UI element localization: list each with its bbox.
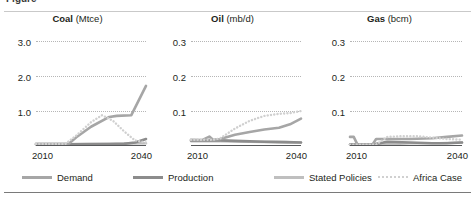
figure-root: Figure Coal (Mtce) 1.02.03.020102040 Oil… bbox=[0, 0, 475, 201]
y-axis-tick-label: 0.2 bbox=[173, 73, 186, 83]
legend-label: Production bbox=[168, 172, 213, 183]
panel-group: Coal (Mtce) 1.02.03.020102040 Oil (mb/d)… bbox=[0, 13, 475, 165]
chart-panel-coal: Coal (Mtce) 1.02.03.020102040 bbox=[0, 13, 155, 165]
panel-title-gas-unit: (bcm) bbox=[388, 13, 412, 24]
x-axis-line-oil bbox=[191, 145, 301, 146]
x-axis-tick-label-end: 2040 bbox=[447, 150, 468, 161]
panel-title-gas-name: Gas bbox=[367, 13, 385, 24]
plot-area-oil: 0.10.20.320102040 bbox=[191, 27, 301, 146]
legend-swatch-icon bbox=[274, 176, 304, 179]
legend-label: Africa Case bbox=[413, 172, 462, 183]
x-axis-tick-label-end: 2040 bbox=[286, 150, 307, 161]
panel-title-gas: Gas (bcm) bbox=[312, 13, 467, 25]
panel-title-coal-name: Coal bbox=[52, 13, 73, 24]
caption-remnant-text: Figure bbox=[6, 0, 37, 4]
panel-title-oil-unit: (mb/d) bbox=[226, 13, 253, 24]
x-axis-line-coal bbox=[36, 145, 146, 146]
y-axis-tick-label: 0.2 bbox=[332, 73, 345, 83]
x-axis-tick-label-start: 2010 bbox=[346, 150, 367, 161]
legend-label: Demand bbox=[57, 172, 93, 183]
caption-remnant: Figure bbox=[0, 0, 475, 11]
y-axis-tick-label: 0.3 bbox=[173, 38, 186, 48]
panel-title-oil: Oil (mb/d) bbox=[155, 13, 310, 25]
rule-bottom bbox=[4, 192, 471, 193]
x-axis-tick-label-end: 2040 bbox=[131, 150, 152, 161]
legend-label: Stated Policies bbox=[309, 172, 372, 183]
y-axis-tick-label: 0.1 bbox=[332, 108, 345, 118]
x-axis-tick-label-start: 2010 bbox=[187, 150, 208, 161]
y-axis-tick-label: 0.1 bbox=[173, 108, 186, 118]
series-line-demand bbox=[36, 86, 146, 144]
panel-title-coal: Coal (Mtce) bbox=[0, 13, 155, 25]
y-axis-tick-label: 3.0 bbox=[18, 38, 31, 48]
x-axis-line-gas bbox=[350, 145, 462, 146]
legend-item-demand[interactable]: Demand bbox=[22, 168, 93, 186]
series-layer-gas bbox=[350, 27, 462, 146]
panel-title-coal-unit: (Mtce) bbox=[76, 13, 103, 24]
chart-legend: DemandProductionStated PoliciesAfrica Ca… bbox=[0, 168, 475, 186]
series-layer-oil bbox=[191, 27, 301, 146]
legend-swatch-icon bbox=[133, 176, 163, 179]
y-axis-tick-label: 0.3 bbox=[332, 38, 345, 48]
legend-item-production[interactable]: Production bbox=[133, 168, 213, 186]
legend-swatch-icon bbox=[22, 176, 52, 179]
x-axis-tick-label-start: 2010 bbox=[32, 150, 53, 161]
chart-panel-oil: Oil (mb/d) 0.10.20.320102040 bbox=[155, 13, 310, 165]
panel-title-oil-name: Oil bbox=[211, 13, 224, 24]
plot-area-coal: 1.02.03.020102040 bbox=[36, 27, 146, 146]
y-axis-tick-label: 2.0 bbox=[18, 73, 31, 83]
rule-top bbox=[4, 11, 471, 12]
plot-area-gas: 0.10.20.320102040 bbox=[350, 27, 462, 146]
y-axis-tick-label: 1.0 bbox=[18, 108, 31, 118]
legend-swatch-icon bbox=[378, 176, 408, 178]
series-layer-coal bbox=[36, 27, 146, 146]
legend-item-stated-policies[interactable]: Stated Policies bbox=[274, 168, 372, 186]
chart-panel-gas: Gas (bcm) 0.10.20.320102040 bbox=[312, 13, 467, 165]
legend-item-africa-case[interactable]: Africa Case bbox=[378, 168, 462, 186]
series-line-africa-case bbox=[36, 115, 146, 144]
